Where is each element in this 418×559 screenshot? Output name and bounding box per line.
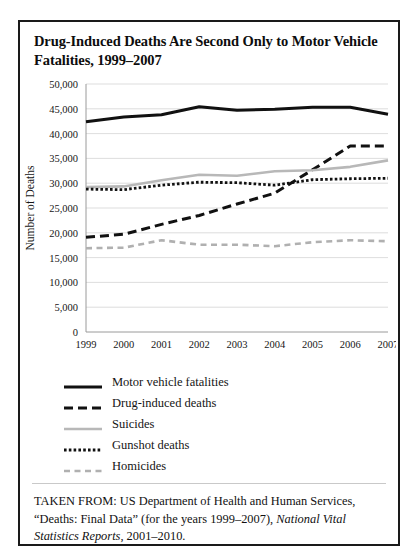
figure-title: Drug-Induced Deaths Are Second Only to M… [20, 22, 398, 70]
legend-item[interactable]: Suicides [64, 414, 398, 435]
x-axis-tick-label: 2007 [378, 339, 397, 350]
legend-label: Motor vehicle fatalities [112, 375, 229, 390]
x-axis-tick-label: 2003 [227, 339, 248, 350]
legend-label: Suicides [112, 417, 154, 432]
legend-label: Gunshot deaths [112, 438, 189, 453]
y-axis-tick-label: 25,000 [49, 203, 78, 214]
source-suffix: , 2001–2010. [120, 529, 185, 543]
legend-swatch-icon [64, 378, 102, 388]
x-axis-tick-label: 2004 [264, 339, 286, 350]
legend-item[interactable]: Drug-induced deaths [64, 393, 398, 414]
series-line [86, 146, 388, 237]
y-axis-tick-label: 35,000 [49, 154, 78, 165]
source-note: TAKEN FROM: US Department of Health and … [20, 484, 398, 546]
chart-legend: Motor vehicle fatalitiesDrug-induced dea… [20, 370, 398, 477]
y-axis-tick-label: 30,000 [49, 178, 78, 189]
y-axis-tick-label: 50,000 [49, 79, 78, 90]
legend-swatch-icon [64, 399, 102, 409]
y-axis-tick-label: 45,000 [49, 104, 78, 115]
legend-swatch-icon [64, 420, 102, 430]
y-axis-tick-label: 15,000 [49, 253, 78, 264]
line-chart: 05,00010,00015,00020,00025,00030,00035,0… [20, 76, 396, 366]
legend-item[interactable]: Motor vehicle fatalities [64, 372, 398, 393]
y-axis-title: Number of Deaths [24, 165, 36, 250]
legend-swatch-icon [64, 462, 102, 472]
y-axis-tick-label: 40,000 [49, 129, 78, 140]
figure-box: Drug-Induced Deaths Are Second Only to M… [18, 20, 400, 546]
x-axis-tick-label: 2002 [189, 339, 210, 350]
y-axis-tick-label: 5,000 [54, 302, 78, 313]
y-axis-tick-label: 0 [73, 327, 78, 338]
y-axis-tick-label: 10,000 [49, 278, 78, 289]
x-axis-tick-label: 2006 [340, 339, 361, 350]
x-axis-tick-label: 2000 [113, 339, 134, 350]
legend-swatch-icon [64, 441, 102, 451]
chart-container: 05,00010,00015,00020,00025,00030,00035,0… [20, 70, 398, 370]
legend-item[interactable]: Homicides [64, 456, 398, 477]
legend-label: Homicides [112, 459, 166, 474]
y-axis-tick-label: 20,000 [49, 228, 78, 239]
legend-item[interactable]: Gunshot deaths [64, 435, 398, 456]
legend-label: Drug-induced deaths [112, 396, 216, 411]
series-line [86, 240, 388, 248]
x-axis-tick-label: 2001 [151, 339, 172, 350]
x-axis-tick-label: 1999 [76, 339, 97, 350]
x-axis-tick-label: 2005 [302, 339, 323, 350]
